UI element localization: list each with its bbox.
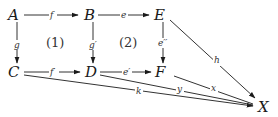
- node-b: B: [83, 6, 95, 24]
- region-label-1: (1): [46, 35, 64, 50]
- node-c: C: [8, 63, 20, 81]
- node-x: X: [257, 98, 270, 116]
- label-k: k: [136, 86, 141, 96]
- commutative-diagram: f e g g′ e′′ f′ e′ h k y x (1) (2) A B E…: [0, 0, 278, 117]
- region-label-2: (2): [119, 35, 137, 50]
- label-x: x: [211, 83, 216, 93]
- label-e: e: [121, 10, 126, 20]
- node-e: E: [153, 6, 165, 24]
- node-a: A: [6, 6, 19, 24]
- label-y: y: [176, 84, 183, 94]
- node-f: F: [154, 63, 166, 81]
- label-g-prime: g′: [89, 40, 97, 50]
- node-d: D: [84, 63, 97, 81]
- label-e-prime: e′: [123, 67, 130, 77]
- label-h: h: [214, 55, 220, 65]
- label-e-double-prime: e′′: [158, 38, 167, 48]
- label-g: g: [14, 40, 20, 50]
- label-f-prime: f′: [49, 67, 55, 77]
